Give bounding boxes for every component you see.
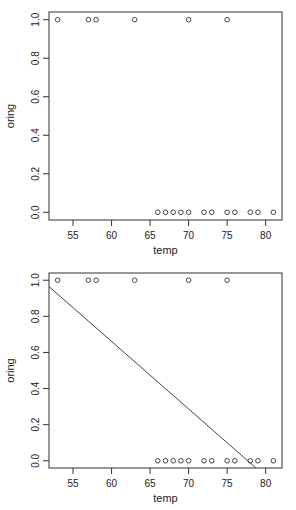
data-point: [233, 458, 238, 463]
data-point: [132, 278, 137, 283]
data-point: [225, 278, 230, 283]
data-point: [94, 278, 99, 283]
x-tick-label: 70: [183, 230, 195, 241]
y-tick-label: 0.6: [30, 345, 41, 359]
data-point: [55, 17, 60, 22]
x-tick-label: 60: [106, 230, 118, 241]
data-point: [256, 458, 261, 463]
y-tick-label: 0.4: [30, 128, 41, 142]
x-axis-label: temp: [153, 244, 177, 256]
data-point: [155, 458, 160, 463]
data-point: [202, 210, 207, 215]
data-point: [202, 458, 207, 463]
data-point: [171, 210, 176, 215]
y-tick-label: 0.2: [30, 417, 41, 431]
y-tick-label: 0.8: [30, 51, 41, 65]
x-tick-label: 55: [67, 478, 79, 489]
data-point: [233, 210, 238, 215]
x-tick-label: 80: [260, 230, 272, 241]
data-point: [163, 210, 168, 215]
scatter-plot-top: 5560657075800.00.20.40.60.81.0temporing: [0, 0, 296, 260]
y-tick-label: 1.0: [30, 273, 41, 287]
x-tick-label: 75: [222, 478, 234, 489]
x-tick-label: 60: [106, 478, 118, 489]
y-tick-label: 0.6: [30, 89, 41, 103]
plot-frame: [49, 273, 282, 468]
plot-frame: [49, 12, 282, 220]
data-point: [163, 458, 168, 463]
y-axis-label: oring: [4, 358, 16, 382]
data-point: [94, 17, 99, 22]
data-point: [186, 210, 191, 215]
x-tick-label: 65: [145, 478, 157, 489]
data-point: [186, 458, 191, 463]
data-point: [186, 17, 191, 22]
y-tick-label: 0.8: [30, 309, 41, 323]
y-tick-label: 0.0: [30, 205, 41, 219]
data-point: [225, 17, 230, 22]
data-point: [155, 210, 160, 215]
x-tick-label: 70: [183, 478, 195, 489]
x-tick-label: 80: [260, 478, 272, 489]
scatter-plot-bottom-with-fit: 5560657075800.00.20.40.60.81.0temporing: [0, 260, 296, 510]
data-point: [86, 278, 91, 283]
data-point: [55, 278, 60, 283]
data-point: [179, 458, 184, 463]
x-tick-label: 55: [67, 230, 79, 241]
data-point: [209, 458, 214, 463]
regression-line: [49, 287, 282, 491]
y-axis-label: oring: [4, 104, 16, 128]
data-point: [86, 17, 91, 22]
y-tick-label: 1.0: [30, 12, 41, 26]
x-tick-label: 75: [222, 230, 234, 241]
data-point: [248, 210, 253, 215]
data-point: [225, 210, 230, 215]
data-point: [171, 458, 176, 463]
data-point: [256, 210, 261, 215]
data-point: [179, 210, 184, 215]
data-point: [271, 458, 276, 463]
x-tick-label: 65: [145, 230, 157, 241]
data-point: [225, 458, 230, 463]
data-point: [186, 278, 191, 283]
y-tick-label: 0.4: [30, 381, 41, 395]
data-point: [132, 17, 137, 22]
data-point: [209, 210, 214, 215]
data-point: [271, 210, 276, 215]
y-tick-label: 0.0: [30, 453, 41, 467]
y-tick-label: 0.2: [30, 166, 41, 180]
x-axis-label: temp: [153, 492, 177, 504]
